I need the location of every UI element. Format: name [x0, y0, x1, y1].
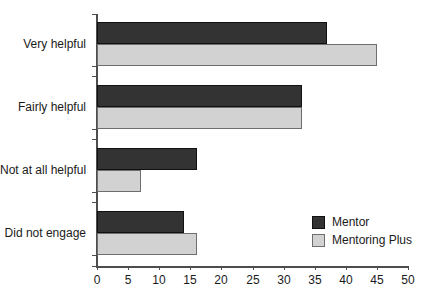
x-tick: [128, 266, 129, 270]
category-label: Not at all helpful: [0, 164, 92, 176]
x-tick-label: 25: [238, 274, 268, 286]
x-tick-label: 5: [113, 274, 143, 286]
legend-label-mentoring-plus: Mentoring Plus: [332, 234, 412, 246]
x-tick: [97, 266, 98, 270]
x-tick-label: 10: [144, 274, 174, 286]
x-tick: [315, 266, 316, 270]
bar: [97, 170, 141, 192]
legend-item: Mentoring Plus: [312, 231, 412, 249]
category-label-wrap: Very helpful: [0, 38, 92, 50]
y-tick: [92, 266, 96, 267]
y-tick: [92, 139, 96, 140]
category-label: Fairly helpful: [0, 101, 92, 113]
x-tick-label: 40: [331, 274, 361, 286]
y-tick: [92, 14, 96, 15]
bar: [97, 233, 197, 255]
x-tick: [284, 266, 285, 270]
bar: [97, 22, 327, 44]
y-tick: [92, 76, 96, 77]
legend-swatch-mentoring-plus-icon: [312, 234, 325, 247]
x-tick-label: 30: [269, 274, 299, 286]
bar: [97, 148, 197, 170]
legend-swatch-mentor-icon: [312, 216, 325, 229]
grouped-bar-chart: 05101520253035404550 Very helpfulFairly …: [0, 0, 423, 295]
y-tick: [92, 202, 96, 203]
bar: [97, 85, 302, 107]
legend-item: Mentor: [312, 213, 412, 231]
category-label-wrap: Did not engage: [0, 227, 92, 239]
x-tick: [346, 266, 347, 270]
x-tick: [221, 266, 222, 270]
x-tick-label: 50: [393, 274, 423, 286]
category-label-wrap: Not at all helpful: [0, 164, 92, 176]
y-tick: [92, 66, 96, 67]
legend-label-mentor: Mentor: [332, 216, 369, 228]
y-tick: [92, 192, 96, 193]
x-tick: [190, 266, 191, 270]
category-label: Did not engage: [0, 227, 92, 239]
x-tick-label: 15: [175, 274, 205, 286]
y-tick: [92, 129, 96, 130]
chart-legend: Mentor Mentoring Plus: [312, 213, 412, 249]
x-tick-label: 45: [362, 274, 392, 286]
x-tick-label: 35: [300, 274, 330, 286]
bar: [97, 44, 377, 66]
category-label: Very helpful: [0, 38, 92, 50]
x-tick: [377, 266, 378, 270]
x-tick-label: 0: [82, 274, 112, 286]
x-tick: [253, 266, 254, 270]
bar: [97, 211, 184, 233]
x-tick: [159, 266, 160, 270]
bar: [97, 107, 302, 129]
category-label-wrap: Fairly helpful: [0, 101, 92, 113]
y-tick: [92, 255, 96, 256]
x-tick: [408, 266, 409, 270]
x-tick-label: 20: [206, 274, 236, 286]
